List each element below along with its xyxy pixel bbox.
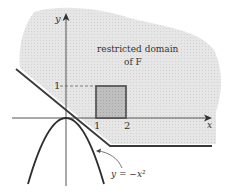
restricted-domain-region (20, 8, 221, 144)
x-axis-label: x (207, 121, 212, 130)
leader-arrow-icon (96, 149, 101, 154)
y-tick-1: 1 (54, 81, 60, 91)
square-region (96, 86, 126, 118)
diagram-svg (0, 0, 228, 195)
region-label-line2: of F (124, 58, 142, 67)
y-axis-label: y (55, 14, 61, 24)
x-tick-2: 2 (124, 121, 130, 131)
region-label-line1: restricted domain (97, 45, 178, 54)
curve-label-leader (98, 151, 122, 168)
x-tick-1: 1 (94, 121, 100, 131)
curve-label: y = −x² (111, 170, 146, 179)
domain-diagram: y x 1 2 1 restricted domain of F y = −x² (0, 0, 228, 195)
